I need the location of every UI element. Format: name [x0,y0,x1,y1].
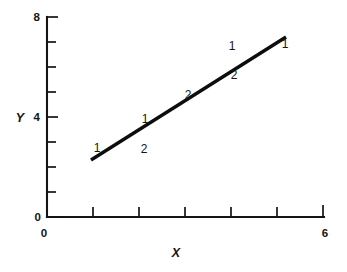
y-axis-ticks [47,17,58,217]
chart-canvas: 8 4 0 0 6 Y X 1 2 1 2 2 1 1 [0,0,347,272]
data-point-label: 2 [231,68,238,82]
x-tick-label-6: 6 [322,227,328,239]
data-point-label: 1 [142,112,149,126]
x-axis-title: X [171,246,181,260]
x-tick-label-0: 0 [41,227,47,239]
data-point-label: 1 [282,37,289,51]
data-point-label: 2 [185,88,192,102]
x-axis-ticks [93,205,323,217]
y-axis-title: Y [16,111,26,125]
y-tick-label-8: 8 [34,11,41,23]
chart-figure: 8 4 0 0 6 Y X 1 2 1 2 2 1 1 [0,0,347,272]
data-point-label: 2 [141,142,148,156]
y-tick-label-4: 4 [34,111,41,123]
data-point-label: 1 [94,141,101,155]
data-point-label: 1 [229,39,236,53]
y-tick-label-0: 0 [35,211,41,223]
